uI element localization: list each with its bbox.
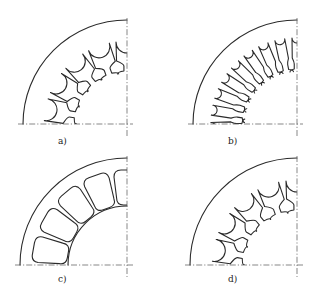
stator-slot [235,194,271,232]
panel-c-label: c) [58,274,67,284]
panel-a [18,18,138,149]
panel-d-label: d) [228,274,237,284]
slot-group [32,170,140,293]
panel-b-label: b) [228,136,237,146]
diagram-canvas [0,0,313,298]
stator-slot [40,208,78,241]
stator-slot [116,42,138,74]
stator-slot [211,119,245,133]
stator-slot [58,186,94,223]
slot-group [212,181,308,290]
panel-a-label: a) [58,136,67,146]
slot-group [44,42,138,149]
panel-b [188,18,304,136]
stator-slot [89,43,119,80]
inner-bore-arc [68,206,127,265]
stator-slot [50,73,88,107]
stator-slot [275,39,294,75]
outer-diameter-arc [20,158,127,265]
stator-slot [286,181,308,213]
stator-slot [84,173,114,210]
stator-slot [211,105,246,122]
panel-d [185,156,308,290]
stator-slot [219,213,257,247]
stator-slot [44,99,79,125]
slot-group [211,38,304,133]
stator-slot [258,182,288,219]
stator-slot [66,54,102,92]
stator-slot [212,240,247,266]
stator-slot-figure: a) b) c) d) [0,0,313,298]
panel-c [15,156,140,293]
stator-slot [232,61,265,93]
